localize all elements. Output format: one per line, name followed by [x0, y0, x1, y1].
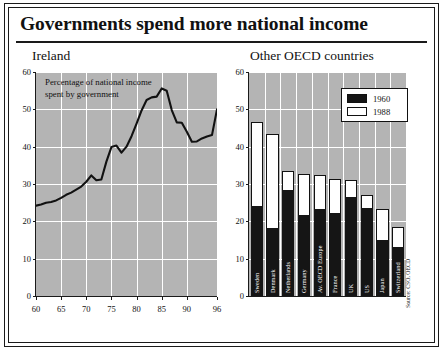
bar-group: France: [329, 72, 341, 296]
gridline-vertical: [280, 72, 281, 296]
bar-category-label: Denmark: [268, 269, 275, 293]
ireland-line-series: [36, 72, 217, 296]
y-axis-tick-label: 20: [228, 216, 244, 226]
ireland-annotation-line2: spent by government: [45, 89, 119, 99]
figure-title: Governments spend more national income: [20, 13, 368, 35]
bar-category-label: Switzerland: [394, 262, 401, 293]
y-axis-tick-label: 0: [15, 291, 31, 301]
x-axis-tick-mark: [111, 297, 112, 300]
legend-label: 1960: [373, 94, 390, 104]
title-divider: [16, 41, 427, 43]
right-x-axis: [248, 296, 406, 297]
x-axis-tick-label: 80: [127, 304, 147, 314]
y-axis-tick-label: 30: [228, 179, 244, 189]
left-x-axis: [35, 296, 217, 297]
bar-group: Denmark: [266, 72, 278, 296]
x-axis-tick-mark: [86, 297, 87, 300]
x-axis-tick-mark: [36, 297, 37, 300]
gridline-vertical: [217, 72, 218, 296]
bar-category-label: Germany: [300, 269, 307, 293]
bar-segment-1960: [345, 197, 357, 296]
y-axis-tick-label: 60: [228, 67, 244, 77]
source-note: Source: CSO, OECD: [405, 259, 411, 308]
figure-root: Governments spend more national income I…: [0, 0, 443, 350]
x-axis-tick-label: 75: [101, 304, 121, 314]
ireland-annotation: Percentage of national income spent by g…: [45, 77, 165, 100]
x-axis-tick-label: 96: [207, 304, 227, 314]
bar-category-label: France: [331, 276, 338, 293]
y-axis-tick-label: 20: [15, 216, 31, 226]
x-axis-tick-mark: [217, 297, 218, 300]
bar-category-label: UK: [347, 284, 354, 293]
x-axis-tick-mark: [61, 297, 62, 300]
x-axis-tick-mark: [137, 297, 138, 300]
legend-swatch: [347, 107, 367, 116]
y-axis-tick-label: 50: [15, 104, 31, 114]
y-axis-tick-label: 60: [15, 67, 31, 77]
bar-group: Netherlands: [282, 72, 294, 296]
bar-group: Germany: [298, 72, 310, 296]
y-axis-tick-label: 50: [228, 104, 244, 114]
y-axis-tick-label: 30: [15, 179, 31, 189]
x-axis-tick-label: 65: [51, 304, 71, 314]
y-axis-tick-label: 10: [228, 254, 244, 264]
legend-item: 1988: [347, 105, 402, 118]
left-y-axis: [35, 72, 36, 297]
bar-segment-1960: [361, 208, 373, 296]
y-axis-tick-label: 10: [15, 254, 31, 264]
legend-item: 1960: [347, 92, 402, 105]
legend: 19601988: [341, 88, 408, 122]
y-axis-tick-label: 40: [228, 142, 244, 152]
x-axis-tick-label: 90: [177, 304, 197, 314]
gridline-vertical: [296, 72, 297, 296]
y-axis-tick-label: 40: [15, 142, 31, 152]
bar-category-label: Av. OECD Europe: [315, 245, 322, 293]
bar-category-label: US: [362, 285, 369, 293]
ireland-annotation-line1: Percentage of national income: [45, 77, 152, 87]
y-axis-tick-label: 0: [228, 291, 244, 301]
legend-label: 1988: [373, 107, 390, 117]
right-y-axis: [248, 72, 249, 297]
bar-category-label: Japan: [378, 278, 385, 293]
bar-category-label: Netherlands: [284, 262, 291, 293]
x-axis-tick-mark: [187, 297, 188, 300]
legend-swatch: [347, 94, 367, 103]
x-axis-tick-mark: [162, 297, 163, 300]
left-panel-title: Ireland: [32, 48, 70, 64]
x-axis-tick-label: 70: [76, 304, 96, 314]
bar-category-label: Sweden: [252, 273, 259, 293]
bar-group: Av. OECD Europe: [314, 72, 326, 296]
bar-group: Sweden: [251, 72, 263, 296]
x-axis-tick-label: 60: [26, 304, 46, 314]
x-axis-tick-label: 85: [152, 304, 172, 314]
right-panel-title: Other OECD countries: [250, 48, 374, 64]
ireland-line-path: [36, 88, 217, 205]
